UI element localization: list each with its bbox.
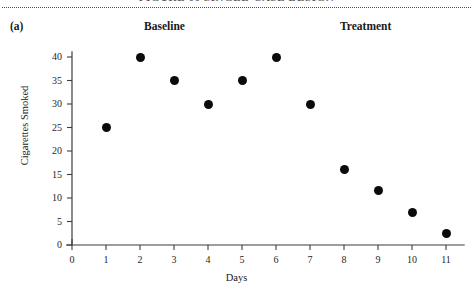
data-point <box>102 123 111 132</box>
x-tick-label: 11 <box>435 254 457 265</box>
data-point <box>408 208 417 217</box>
y-tick-label: 0 <box>42 239 62 250</box>
x-tick-label: 7 <box>299 254 321 265</box>
y-tick-label: 30 <box>42 98 62 109</box>
x-tick-label: 2 <box>129 254 151 265</box>
data-point <box>136 53 145 62</box>
y-tick-label: 35 <box>42 75 62 86</box>
y-axis-label: Cigarettes Smoked <box>19 71 30 181</box>
data-point <box>442 229 451 238</box>
x-tick-label: 3 <box>163 254 185 265</box>
y-tick-label: 40 <box>42 51 62 62</box>
y-tick-label: 20 <box>42 145 62 156</box>
data-point <box>238 76 247 85</box>
y-tick-label: 25 <box>42 122 62 133</box>
y-tick-label: 10 <box>42 192 62 203</box>
x-tick-label: 1 <box>95 254 117 265</box>
data-point <box>272 53 281 62</box>
scatter-plot: Cigarettes Smoked Days 05101520253035400… <box>0 0 473 299</box>
data-point <box>204 100 213 109</box>
x-tick-label: 10 <box>401 254 423 265</box>
data-point <box>170 76 179 85</box>
data-point <box>306 100 315 109</box>
data-point <box>340 165 349 174</box>
x-axis-label: Days <box>0 272 473 283</box>
x-tick-label: 4 <box>197 254 219 265</box>
y-tick-label: 5 <box>42 216 62 227</box>
x-tick-label: 0 <box>61 254 83 265</box>
data-point <box>374 186 383 195</box>
x-tick-label: 9 <box>367 254 389 265</box>
x-tick-label: 5 <box>231 254 253 265</box>
y-tick-label: 15 <box>42 169 62 180</box>
x-tick-label: 8 <box>333 254 355 265</box>
x-tick-label: 6 <box>265 254 287 265</box>
